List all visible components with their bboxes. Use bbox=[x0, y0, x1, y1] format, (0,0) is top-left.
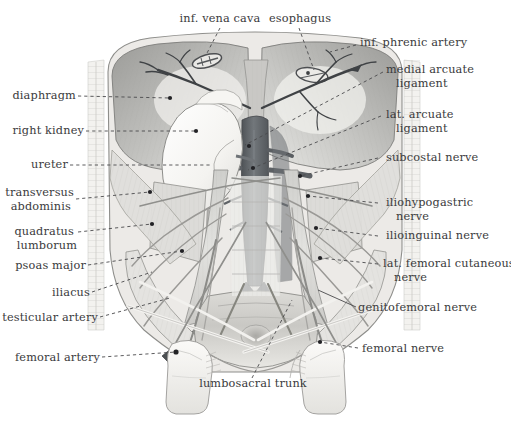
costal-margin-left bbox=[88, 60, 104, 330]
femur-left bbox=[166, 340, 212, 414]
anatomy-illustration bbox=[0, 0, 511, 422]
anatomy-figure: inf. vena cava esophagus inf. phrenic ar… bbox=[0, 0, 511, 422]
costal-margin-right bbox=[404, 60, 420, 330]
